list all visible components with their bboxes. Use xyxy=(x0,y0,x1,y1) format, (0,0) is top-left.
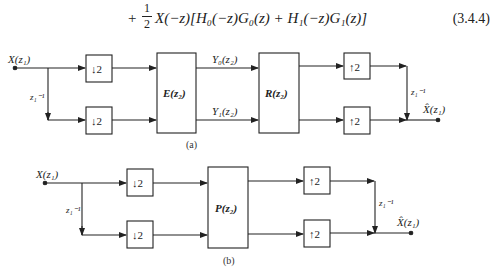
output-node xyxy=(436,118,440,122)
input-label: X(z₁) xyxy=(35,168,58,181)
delay-label-out: z₁⁻¹ xyxy=(378,198,394,208)
upsampler-top-label: ↑2 xyxy=(309,175,320,187)
block-r-label: R(z₂) xyxy=(264,87,288,100)
filter-bank-diagrams: X(z₁) z₁⁻¹ ↓2 ↓2 E(z₂) Y₀(z₂) Y₁(z₂) R(z… xyxy=(0,0,498,280)
delay-label-in: z₁⁻¹ xyxy=(65,205,81,215)
delay-label-out: z₁⁻¹ xyxy=(410,87,426,97)
block-p-label: P(z₂) xyxy=(215,202,237,215)
upsampler-bottom-label: ↑2 xyxy=(309,228,320,240)
downsampler-bottom-label: ↓2 xyxy=(91,115,102,127)
downsampler-top-label: ↓2 xyxy=(132,177,143,189)
output-label: X̂(z₁) xyxy=(422,103,445,116)
downsampler-bottom-label: ↓2 xyxy=(132,229,143,241)
output-node xyxy=(409,231,413,235)
block-e-label: E(z₂) xyxy=(162,87,186,100)
diagram-a xyxy=(13,53,440,134)
downsampler-top-label: ↓2 xyxy=(91,63,102,75)
signal-y1-label: Y₁(z₂) xyxy=(212,105,238,118)
input-label: X(z₁) xyxy=(7,53,30,66)
upsampler-top-label: ↑2 xyxy=(349,61,360,73)
caption-b: (b) xyxy=(223,255,235,267)
caption-a: (a) xyxy=(186,139,197,151)
delay-label-in: z₁⁻¹ xyxy=(29,92,45,102)
signal-y0-label: Y₀(z₂) xyxy=(212,53,238,66)
upsampler-bottom-label: ↑2 xyxy=(349,115,360,127)
output-label: X̂(z₁) xyxy=(396,216,419,229)
